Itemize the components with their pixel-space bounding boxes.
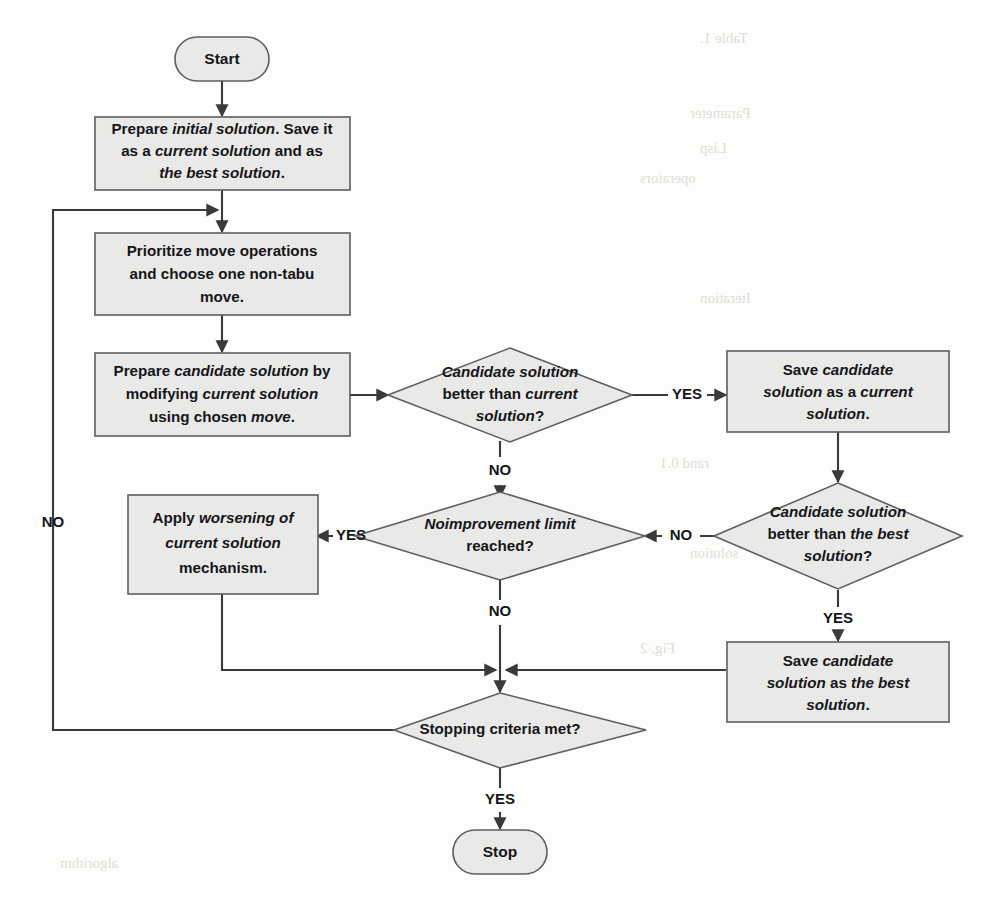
node-stopping-criteria-text: Stopping criteria met? (419, 720, 580, 737)
edge-label-stopping-no: NO (42, 513, 65, 530)
edge-label-better-best-yes: YES (823, 609, 853, 626)
edge-label-stopping-yes: YES (485, 790, 515, 807)
edge-label-no-improvement-yes: YES (336, 526, 366, 543)
edge-apply-worsening-to-junction (222, 594, 496, 670)
node-stop-label: Stop (483, 843, 517, 860)
flowchart-svg: Start Prepare initial solution. Save ita… (0, 0, 984, 912)
node-start-label: Start (204, 50, 239, 67)
edge-label-better-current-no: NO (489, 461, 512, 478)
flowchart-canvas: Table 1. Parameter Lisp operators Iterat… (0, 0, 984, 912)
edge-label-better-best-no: NO (670, 526, 693, 543)
edge-label-better-current-yes: YES (672, 385, 702, 402)
node-no-improvement-limit[interactable] (355, 492, 645, 580)
edge-label-no-improvement-no: NO (489, 602, 512, 619)
